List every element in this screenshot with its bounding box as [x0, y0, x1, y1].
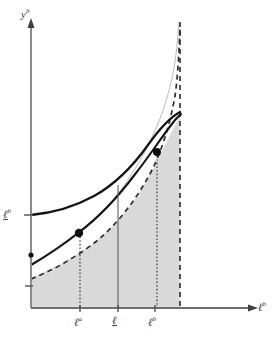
x-tick-label-1-text: ℓ: [112, 315, 117, 326]
x-axis-label-superscript: b: [263, 300, 267, 308]
marker-point-b: [153, 148, 161, 156]
x-tick-label-0-superscript: a: [79, 315, 83, 323]
x-tick-label-2: ℓb: [148, 316, 156, 328]
x-axis-label: ℓb: [258, 301, 266, 313]
x-tick-label-2-superscript: b: [153, 315, 157, 323]
figure-container: yb ℓb ℓb ℓa ℓ ℓb: [0, 0, 279, 343]
x-tick-label-1: ℓ: [112, 315, 117, 326]
x-tick-label-0: ℓa: [74, 316, 82, 328]
marker-point-a: [75, 229, 83, 237]
y-axis-label-superscript: b: [26, 7, 30, 15]
plot-canvas: [0, 0, 279, 343]
marker-point-axis: [28, 252, 33, 257]
y-axis-label: yb: [21, 8, 29, 20]
y-intercept-label: ℓb: [3, 208, 11, 220]
y-intercept-label-superscript: b: [8, 207, 12, 215]
x-axis-arrowhead: [248, 305, 258, 312]
